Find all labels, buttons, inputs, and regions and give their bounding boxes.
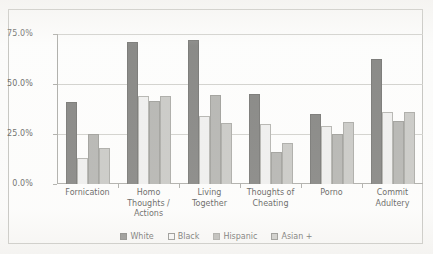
bar[interactable]	[382, 112, 393, 184]
legend-item[interactable]: Hispanic	[213, 232, 257, 241]
x-axis-label: Thoughts of Cheating	[240, 188, 301, 220]
bar[interactable]	[138, 96, 149, 184]
bar[interactable]	[199, 116, 210, 184]
legend-swatch-icon	[120, 233, 127, 240]
x-axis-label: Fornication	[57, 188, 118, 220]
y-axis-tick-label: 50.0%	[0, 79, 33, 88]
legend-label: Black	[178, 232, 200, 241]
bar[interactable]	[188, 40, 199, 184]
bar[interactable]	[393, 121, 404, 184]
bar-group	[240, 34, 301, 184]
legend-item[interactable]: Black	[168, 232, 200, 241]
chart-container: 0.0%25.0%50.0%75.0% FornicationHomo Thou…	[0, 0, 433, 254]
legend-label: Hispanic	[223, 232, 257, 241]
bar[interactable]	[282, 143, 293, 184]
bar[interactable]	[260, 124, 271, 184]
x-axis-label: Living Together	[179, 188, 240, 220]
bar-group	[57, 34, 118, 184]
bar[interactable]	[127, 42, 138, 184]
bar[interactable]	[404, 112, 415, 184]
bar[interactable]	[221, 123, 232, 184]
bar[interactable]	[332, 134, 343, 184]
legend-swatch-icon	[271, 233, 278, 240]
bar-group	[118, 34, 179, 184]
bar-groups	[57, 34, 423, 184]
bar[interactable]	[149, 101, 160, 184]
legend-label: Asian +	[281, 232, 312, 241]
legend-swatch-icon	[213, 233, 220, 240]
y-axis-tick-label: 75.0%	[0, 29, 33, 38]
bar[interactable]	[77, 158, 88, 184]
bar[interactable]	[371, 59, 382, 184]
x-axis-labels: FornicationHomo Thoughts / ActionsLiving…	[57, 188, 423, 220]
bar[interactable]	[66, 102, 77, 184]
bar[interactable]	[88, 134, 99, 184]
bar[interactable]	[99, 148, 110, 184]
legend-item[interactable]: Asian +	[271, 232, 312, 241]
x-axis-label: Homo Thoughts / Actions	[118, 188, 179, 220]
legend-swatch-icon	[168, 233, 175, 240]
legend-item[interactable]: White	[120, 232, 153, 241]
bar-group	[362, 34, 423, 184]
y-axis-tick	[53, 184, 57, 185]
bar[interactable]	[310, 114, 321, 184]
bar[interactable]	[321, 126, 332, 184]
y-axis-tick-label: 0.0%	[0, 179, 33, 188]
bar-group	[301, 34, 362, 184]
x-axis-label: Porno	[301, 188, 362, 220]
bar[interactable]	[210, 95, 221, 184]
bar[interactable]	[160, 96, 171, 184]
chart-frame: 0.0%25.0%50.0%75.0% FornicationHomo Thou…	[8, 9, 423, 244]
x-axis-label: Commit Adultery	[362, 188, 423, 220]
bar[interactable]	[271, 152, 282, 184]
bar[interactable]	[249, 94, 260, 184]
bar-group	[179, 34, 240, 184]
y-axis-tick-label: 25.0%	[0, 129, 33, 138]
bar[interactable]	[343, 122, 354, 184]
chart-legend: WhiteBlackHispanicAsian +	[9, 232, 424, 241]
legend-label: White	[130, 232, 153, 241]
